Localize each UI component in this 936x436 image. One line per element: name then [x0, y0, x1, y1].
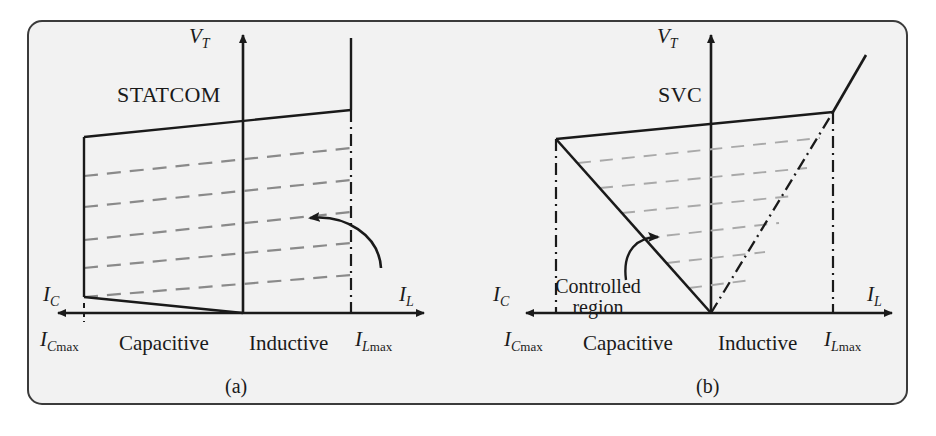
statcom-inductive-label: Inductive — [249, 331, 328, 356]
panel-b-svc: VT SVC Controlled region IC IL ICmax Cap… — [468, 0, 936, 436]
panel-a-statcom: VT STATCOM IC IL ICmax Capacitive Induct… — [0, 0, 468, 436]
svc-callout-line-1: Controlled — [528, 276, 668, 297]
svc-caption: (b) — [696, 375, 719, 398]
svc-ic-max-label: ICmax — [504, 327, 543, 355]
statcom-il-max-label: ILmax — [355, 327, 392, 355]
statcom-capacitive-label: Capacitive — [119, 331, 209, 356]
svc-il-max-label: ILmax — [824, 327, 861, 355]
statcom-ic-max-label: ICmax — [40, 327, 79, 355]
statcom-caption: (a) — [225, 375, 247, 398]
statcom-x-axis-right-label: IL — [399, 282, 414, 310]
svc-y-axis-label: VT — [657, 24, 678, 52]
svc-capacitive-label: Capacitive — [583, 331, 673, 356]
svc-controlled-region-callout: Controlled region — [528, 276, 668, 318]
figure-root: VT STATCOM IC IL ICmax Capacitive Induct… — [0, 0, 936, 436]
statcom-title: STATCOM — [117, 82, 221, 108]
svc-x-axis-left-label: IC — [493, 282, 509, 310]
statcom-x-axis-left-label: IC — [43, 282, 59, 310]
svc-title: SVC — [658, 82, 702, 108]
svc-inductive-label: Inductive — [718, 331, 797, 356]
svc-x-axis-right-label: IL — [867, 282, 882, 310]
statcom-y-axis-label: VT — [189, 24, 210, 52]
svc-callout-line-2: region — [528, 297, 668, 318]
